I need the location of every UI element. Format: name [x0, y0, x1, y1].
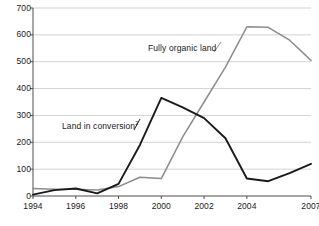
x-tick-label: 1994	[23, 202, 42, 211]
x-tick-label: 2000	[152, 202, 171, 211]
x-axis-tick-labels: 1994199619982000200220042007	[0, 0, 319, 226]
series-label-land-in-conversion: Land in conversion2	[62, 122, 138, 131]
x-tick-label: 2004	[237, 202, 256, 211]
x-tick-label: 2002	[194, 202, 213, 211]
plot-area: 0100200300400500600700 19941996199820002…	[0, 0, 319, 226]
series-label-fully-organic-land: Fully organic land	[148, 44, 216, 53]
footnote-marker: 2	[135, 120, 138, 126]
x-tick-label: 1998	[109, 202, 128, 211]
x-tick-label: 2007	[301, 202, 319, 211]
organic-land-line-chart: 0100200300400500600700 19941996199820002…	[0, 0, 319, 226]
x-tick-label: 1996	[66, 202, 85, 211]
